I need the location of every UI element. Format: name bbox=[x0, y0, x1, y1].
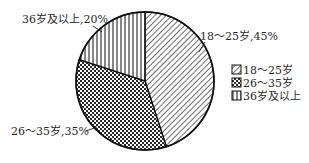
pie-chart: 36岁及以上,20% 18～25岁,45% 26～35岁,35% 18～25岁 … bbox=[0, 0, 309, 163]
legend-item-18-25: 18～25岁 bbox=[232, 63, 293, 77]
label-26-35: 26～35岁,35% bbox=[11, 124, 89, 138]
legend-label: 36岁及以上 bbox=[243, 89, 301, 103]
legend-item-36-plus: 36岁及以上 bbox=[232, 89, 301, 103]
legend-swatch-checker-icon bbox=[232, 78, 241, 87]
label-36-plus: 36岁及以上,20% bbox=[22, 12, 108, 26]
legend-label: 26～35岁 bbox=[243, 76, 293, 90]
legend-swatch-diagonal-icon bbox=[232, 65, 241, 74]
label-18-25: 18～25岁,45% bbox=[200, 29, 278, 43]
legend-item-26-35: 26～35岁 bbox=[232, 76, 293, 90]
legend: 18～25岁 26～35岁 36岁及以上 bbox=[232, 63, 301, 103]
legend-label: 18～25岁 bbox=[243, 63, 293, 77]
pie-slices bbox=[76, 12, 214, 150]
legend-swatch-vertical-icon bbox=[232, 91, 241, 100]
